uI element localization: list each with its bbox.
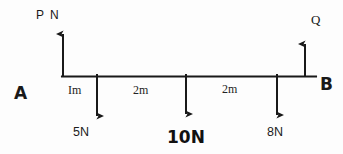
dimension-label-1m: Im [68, 84, 81, 96]
force-label-5n: 5N [73, 126, 89, 139]
reaction-label-p: P N [36, 9, 60, 21]
dimension-label-2m-right: 2m [222, 83, 237, 95]
force-label-10n: 10N [167, 129, 205, 146]
beam-diagram: P N Q A B Im 2m 2m 5N 10N 8N [0, 0, 343, 154]
dimension-label-2m-left: 2m [133, 84, 148, 96]
reaction-label-q: Q [311, 13, 320, 26]
force-label-8n: 8N [267, 126, 283, 139]
support-label-b: B [320, 76, 333, 93]
support-label-a: A [14, 85, 27, 102]
